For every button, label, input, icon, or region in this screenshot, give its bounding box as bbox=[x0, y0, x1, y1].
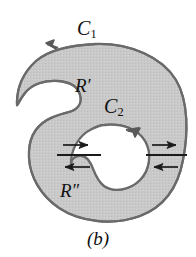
lower-region-label-base: R bbox=[60, 180, 72, 201]
lower-region-label: R″ bbox=[60, 181, 79, 200]
outer-curve-arrowhead bbox=[46, 40, 58, 49]
upper-region-label-base: R bbox=[75, 75, 87, 96]
outer-curve-label-sub: 1 bbox=[91, 27, 97, 41]
shaded-region-group bbox=[17, 44, 187, 222]
figure-caption: (b) bbox=[0, 228, 196, 250]
figure-container: C1 R′ C2 R″ (b) bbox=[0, 0, 196, 257]
inner-curve-label-base: C bbox=[104, 95, 117, 117]
lower-region-label-prime: ″ bbox=[72, 181, 80, 201]
greens-theorem-region-diagram bbox=[0, 0, 196, 257]
inner-curve-label-sub: 2 bbox=[118, 105, 124, 119]
outer-curve-label: C1 bbox=[77, 18, 97, 38]
inner-curve-label: C2 bbox=[104, 96, 124, 116]
outer-curve-label-base: C bbox=[77, 17, 90, 39]
upper-region-label-prime: ′ bbox=[87, 76, 91, 96]
upper-region-label: R′ bbox=[75, 76, 91, 95]
